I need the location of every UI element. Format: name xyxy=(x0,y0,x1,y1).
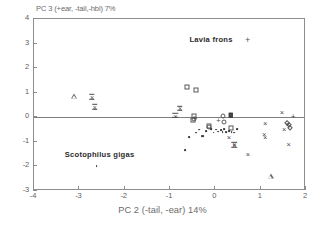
cross-marker-icon xyxy=(287,141,291,149)
dot-marker-icon xyxy=(201,135,203,137)
square-marker-icon xyxy=(207,124,212,129)
star-cross-marker-icon xyxy=(90,93,94,100)
x-axis-tick-mark xyxy=(124,186,125,190)
cross-marker-icon xyxy=(280,109,284,117)
triangle-marker-icon xyxy=(71,94,77,99)
dot-marker-icon xyxy=(205,130,207,132)
annotation-lavia-frons-label: Lavia frons xyxy=(189,35,232,44)
x-axis-tick-label: 1 xyxy=(248,192,272,200)
square-marker-icon xyxy=(191,118,196,123)
x-axis-tick-label: -1 xyxy=(157,192,181,200)
cross-marker-icon xyxy=(232,141,236,149)
y-axis-tick-label: 1 xyxy=(7,88,29,96)
x-axis-tick-label: -2 xyxy=(112,192,136,200)
dot-marker-icon xyxy=(198,129,200,131)
x-axis-tick-mark xyxy=(214,186,215,190)
plus-marker-icon: + xyxy=(245,35,251,45)
y-axis-tick-label: -1 xyxy=(7,137,29,145)
cross-marker-icon xyxy=(246,151,250,159)
cross-marker-icon xyxy=(282,126,286,134)
annotation-lavia-frons: Lavia frons + xyxy=(189,35,250,45)
dot-marker-icon xyxy=(233,132,235,134)
plus-marker-icon xyxy=(216,118,220,126)
y-axis-title: PC 3 (+ear, -tail,-hbl) 7% xyxy=(36,4,115,13)
x-axis-tick-label: 2 xyxy=(293,192,317,200)
y-axis-tick-label: 3 xyxy=(7,39,29,47)
dot-marker-icon xyxy=(228,130,230,132)
dot-marker-icon xyxy=(213,132,215,134)
circle-marker-icon xyxy=(206,124,211,129)
circle-marker-icon xyxy=(222,120,227,125)
dot-marker-icon xyxy=(222,131,224,133)
diamond-marker-icon xyxy=(284,120,290,126)
diamond-marker-icon xyxy=(287,125,293,131)
dot-marker-icon xyxy=(195,132,197,134)
x-axis-tick-mark xyxy=(305,186,306,190)
y-axis-tick-mark xyxy=(33,67,37,68)
y-axis-tick-mark xyxy=(33,18,37,19)
y-axis-tick-label: -2 xyxy=(7,161,29,169)
x-axis-tick-mark xyxy=(78,186,79,190)
dot-marker-icon xyxy=(223,128,225,130)
diamond-marker-icon xyxy=(286,122,292,128)
dot-marker-icon xyxy=(96,165,98,167)
triangle-marker-icon xyxy=(268,174,274,179)
y-axis-tick-label: 4 xyxy=(7,14,29,22)
plot-frame xyxy=(33,18,305,190)
dot-marker-icon xyxy=(220,129,222,131)
cross-marker-icon xyxy=(263,135,267,143)
x-axis-tick-mark xyxy=(260,186,261,190)
dot-marker-icon xyxy=(236,128,238,130)
star-cross-marker-icon xyxy=(93,103,97,110)
x-axis-tick-label: 0 xyxy=(202,192,226,200)
dot-marker-icon xyxy=(210,128,212,130)
dot-marker-icon xyxy=(225,131,227,133)
x-axis-tick-label: -4 xyxy=(21,192,45,200)
cross-marker-icon xyxy=(286,122,290,130)
plot-data-area xyxy=(34,19,304,189)
star-cross-marker-icon xyxy=(178,105,182,112)
y-axis-tick-label: 2 xyxy=(7,63,29,71)
cross-marker-icon xyxy=(262,131,266,139)
dot-marker-icon xyxy=(185,150,187,152)
star-cross-marker-icon xyxy=(232,141,236,148)
annotation-scotophilus-gigas: Scotophilus gigas xyxy=(65,150,135,159)
zero-reference-line xyxy=(34,117,304,118)
y-axis-tick-mark xyxy=(33,116,37,117)
dot-marker-icon xyxy=(215,129,217,131)
x-axis-tick-label: -3 xyxy=(66,192,90,200)
y-axis-tick-mark xyxy=(33,92,37,93)
scatter-plot-figure: PC 3 (+ear, -tail,-hbl) 7% 43210-1-2-3 -… xyxy=(0,0,325,225)
y-axis-tick-mark xyxy=(33,43,37,44)
dot-marker-icon xyxy=(217,131,219,133)
square-marker-icon xyxy=(194,88,199,93)
square-marker-icon xyxy=(228,125,233,130)
y-axis-tick-mark xyxy=(33,165,37,166)
dot-marker-icon xyxy=(231,131,233,133)
dot-marker-icon xyxy=(189,137,191,139)
y-axis-tick-mark xyxy=(33,141,37,142)
x-axis-tick-mark xyxy=(33,186,34,190)
y-axis-tick-label: 0 xyxy=(7,112,29,120)
x-axis-tick-mark xyxy=(169,186,170,190)
dot-marker-icon xyxy=(203,136,205,138)
annotation-scotophilus-gigas-label: Scotophilus gigas xyxy=(65,150,135,159)
x-axis-title: PC 2 (-tail, -ear) 14% xyxy=(0,205,325,215)
cross-marker-icon xyxy=(263,120,267,128)
square-marker-icon xyxy=(185,84,190,89)
cross-marker-icon xyxy=(227,134,231,142)
